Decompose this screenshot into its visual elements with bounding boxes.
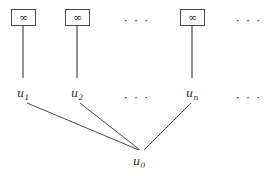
node-u0-root-subscript: 0 (140, 161, 145, 170)
mid-ellipsis-1: · · · (124, 93, 149, 104)
tree-diagram-figure: ∞∞∞ · · ·· · · u1u2un · · ·· · · u0 (0, 0, 268, 176)
node-u0-root: u0 (133, 156, 145, 167)
infinity-icon: ∞ (188, 12, 197, 23)
diagonal-edge-3 (144, 103, 191, 150)
node-u1-subscript: 1 (24, 93, 29, 102)
diagonal-edge-2 (80, 103, 140, 150)
infinity-icon: ∞ (73, 12, 82, 23)
mid-ellipsis-2: · · · (236, 93, 261, 104)
infinity-box-3: ∞ (180, 9, 205, 26)
node-u2: u2 (71, 88, 83, 99)
vertical-edge-group (23, 26, 192, 78)
node-u2-subscript: 2 (78, 93, 83, 102)
top-ellipsis-1: · · · (124, 16, 149, 27)
infinity-icon: ∞ (19, 12, 28, 23)
infinity-box-1: ∞ (11, 9, 36, 26)
top-ellipsis-2: · · · (236, 16, 261, 27)
node-u1: u1 (17, 88, 29, 99)
node-un: un (186, 88, 198, 99)
node-un-subscript: n (193, 93, 198, 102)
diagonal-edge-1 (27, 103, 139, 150)
diagonal-edge-group (27, 103, 191, 150)
infinity-box-2: ∞ (65, 9, 90, 26)
